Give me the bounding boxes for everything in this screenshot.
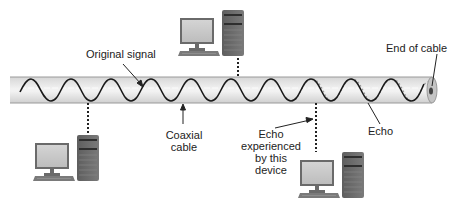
echo-experienced-arrowhead [306,118,313,123]
coaxial-cable-label-line2: cable [162,141,206,153]
original-signal-label: Original signal [86,48,156,60]
top-computer-icon [178,10,244,56]
echo-experienced-arrow [275,120,310,128]
bottom-left-computer-icon [33,135,99,181]
end-of-cable-label: End of cable [386,42,447,54]
cable-end-cap [427,77,437,103]
echo-experienced-line1: Echo [238,128,304,140]
coaxial-cable-arrowhead [181,104,186,110]
echo-experienced-line4: device [238,164,304,176]
echo-arrow [368,103,380,124]
echo-label: Echo [368,125,393,137]
coaxial-cable-label: Coaxial cable [162,129,206,153]
bottom-right-computer-icon [298,152,364,198]
echo-experienced-label: Echo experienced by this device [238,128,304,176]
coaxial-cable-label-line1: Coaxial [162,129,206,141]
coaxial-cable-diagram [0,0,452,208]
echo-experienced-line2: experienced [238,140,304,152]
echo-experienced-line3: by this [238,152,304,164]
